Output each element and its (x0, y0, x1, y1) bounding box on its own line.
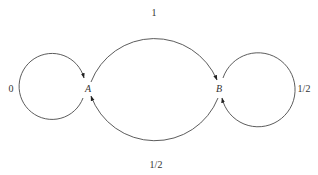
edge-b-b-loop (222, 53, 295, 127)
node-a-label: A (84, 83, 92, 94)
node-b-label: B (216, 83, 222, 94)
edge-a-a-loop (19, 53, 84, 119)
edge-b-a-arc (91, 96, 218, 141)
edge-a-b-arc (91, 39, 217, 82)
state-diagram: A B 0 1 1/2 1/2 (0, 0, 318, 175)
edge-label-b-a: 1/2 (150, 159, 163, 170)
edge-label-a-b: 1 (152, 7, 157, 18)
edge-label-a-a: 0 (9, 83, 14, 94)
edge-label-b-b: 1/2 (298, 83, 311, 94)
